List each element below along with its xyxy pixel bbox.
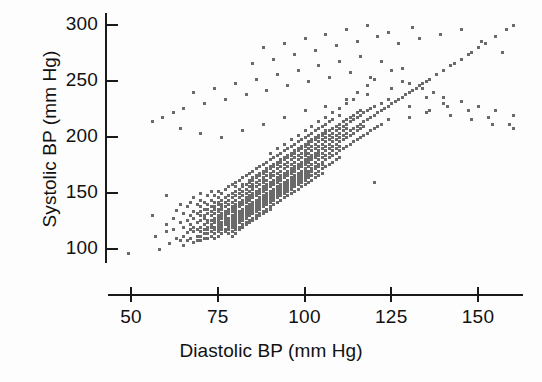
data-point	[512, 127, 515, 130]
data-point	[470, 51, 473, 54]
data-point	[428, 78, 431, 81]
data-point	[328, 76, 331, 79]
data-point	[186, 219, 189, 222]
data-point	[432, 91, 435, 94]
data-point	[484, 42, 487, 45]
data-point	[442, 69, 445, 72]
data-point	[449, 114, 452, 117]
data-point	[179, 239, 182, 242]
data-point	[283, 42, 286, 45]
data-point	[192, 217, 195, 220]
data-point	[182, 235, 185, 238]
data-point	[387, 98, 390, 101]
data-point	[428, 109, 431, 112]
data-point	[283, 116, 286, 119]
data-point	[491, 123, 494, 126]
data-point	[210, 190, 213, 193]
data-points-layer	[0, 0, 542, 382]
data-point	[387, 31, 390, 34]
data-point	[168, 242, 171, 245]
data-point	[508, 123, 511, 126]
data-point	[182, 244, 185, 247]
data-point	[151, 214, 154, 217]
data-point	[324, 33, 327, 36]
data-point	[373, 181, 376, 184]
data-point	[186, 231, 189, 234]
data-point	[356, 40, 359, 43]
data-point	[304, 109, 307, 112]
data-point	[317, 120, 320, 123]
data-point	[127, 252, 130, 255]
data-point	[380, 123, 383, 126]
data-point	[380, 102, 383, 105]
data-point	[366, 24, 369, 27]
data-point	[408, 116, 411, 119]
data-point	[172, 228, 175, 231]
data-point	[446, 105, 449, 108]
data-point	[269, 208, 272, 211]
data-point	[345, 102, 348, 105]
data-point	[401, 80, 404, 83]
data-point	[356, 91, 359, 94]
data-point	[158, 248, 161, 251]
data-point	[251, 62, 254, 65]
data-point	[272, 58, 275, 61]
data-point	[324, 105, 327, 108]
data-point	[179, 203, 182, 206]
data-point	[182, 226, 185, 229]
data-point	[172, 111, 175, 114]
data-point	[189, 201, 192, 204]
data-point	[359, 55, 362, 58]
data-point	[262, 46, 265, 49]
data-point	[494, 35, 497, 38]
data-point	[397, 42, 400, 45]
data-point	[276, 73, 279, 76]
data-point	[255, 78, 258, 81]
data-point	[321, 172, 324, 175]
data-point	[189, 237, 192, 240]
data-point	[241, 129, 244, 132]
data-point	[234, 232, 237, 235]
data-point	[470, 118, 473, 121]
data-point	[245, 93, 248, 96]
data-point	[192, 91, 195, 94]
data-point	[352, 98, 355, 101]
data-point	[182, 212, 185, 215]
data-point	[179, 127, 182, 130]
data-point	[276, 147, 279, 150]
data-point	[165, 194, 168, 197]
data-point	[297, 69, 300, 72]
data-point	[172, 217, 175, 220]
data-point	[314, 49, 317, 52]
data-point	[331, 111, 334, 114]
data-point	[460, 28, 463, 31]
data-point	[154, 235, 157, 238]
data-point	[460, 100, 463, 103]
scatter-plot-figure: 100150200250300 5075100125150 Diastolic …	[0, 0, 542, 382]
data-point	[387, 118, 390, 121]
data-point	[512, 114, 515, 117]
data-point	[477, 105, 480, 108]
data-point	[467, 109, 470, 112]
data-point	[186, 205, 189, 208]
data-point	[220, 192, 223, 195]
data-point	[373, 105, 376, 108]
data-point	[335, 44, 338, 47]
data-point	[161, 116, 164, 119]
data-point	[290, 138, 293, 141]
data-point	[286, 84, 289, 87]
data-point	[401, 67, 404, 70]
data-point	[192, 196, 195, 199]
data-point	[460, 58, 463, 61]
data-point	[418, 37, 421, 40]
data-point	[165, 223, 168, 226]
data-point	[380, 60, 383, 63]
data-point	[213, 87, 216, 90]
data-point	[331, 118, 334, 121]
data-point	[505, 28, 508, 31]
data-point	[265, 89, 268, 92]
data-point	[373, 78, 376, 81]
data-point	[151, 120, 154, 123]
data-point	[494, 109, 497, 112]
data-point	[324, 116, 327, 119]
